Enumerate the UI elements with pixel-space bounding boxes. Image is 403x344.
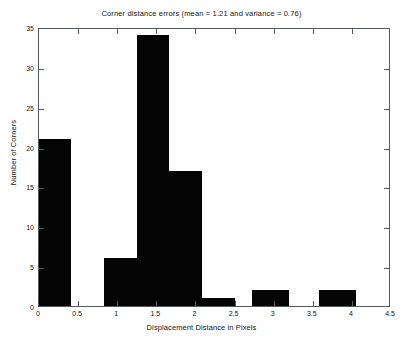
y-tick-label: 30 bbox=[12, 64, 34, 71]
x-tick-label: 1.5 bbox=[150, 310, 160, 317]
y-axis-tick-labels: 05101520253035 bbox=[0, 28, 403, 307]
y-tick-label: 0 bbox=[12, 304, 34, 311]
x-tick-label: 1 bbox=[114, 310, 118, 317]
x-tick-label: 4 bbox=[349, 310, 353, 317]
y-tick-label: 10 bbox=[12, 224, 34, 231]
page-title: Corner distance errors (mean = 1.21 and … bbox=[0, 9, 403, 18]
y-tick-label: 5 bbox=[12, 264, 34, 271]
y-axis-title: Number of Corners bbox=[9, 88, 18, 218]
figure-canvas: Corner distance errors (mean = 1.21 and … bbox=[0, 0, 403, 344]
x-tick-label: 0.5 bbox=[72, 310, 82, 317]
x-tick-label: 0 bbox=[36, 310, 40, 317]
x-axis-tick-labels: 00.511.522.533.544.5 bbox=[38, 310, 390, 324]
x-tick-label: 3.5 bbox=[307, 310, 317, 317]
y-tick-label: 35 bbox=[12, 25, 34, 32]
x-tick-label: 2 bbox=[192, 310, 196, 317]
x-tick-label: 3 bbox=[271, 310, 275, 317]
x-axis-title: Displacement Distance in Pixels bbox=[0, 323, 403, 332]
x-tick-label: 2.5 bbox=[229, 310, 239, 317]
x-tick-label: 4.5 bbox=[385, 310, 395, 317]
